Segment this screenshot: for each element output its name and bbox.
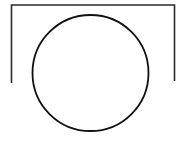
diagram-canvas bbox=[0, 0, 186, 142]
open-bracket-shape bbox=[12, 5, 175, 83]
circle-shape bbox=[33, 15, 149, 131]
